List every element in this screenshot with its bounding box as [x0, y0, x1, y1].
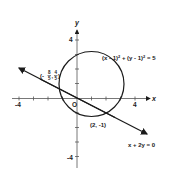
intersection-label-1: (- 8 5 , 4 5 )	[40, 70, 60, 81]
circle-graph	[59, 52, 124, 117]
coordinate-diagram: y x O -4 4 4 -4 (x - 1)2 + (y - 1)2 = 5 …	[0, 0, 186, 177]
intersection-label-2: (2, -1)	[90, 122, 106, 128]
origin-label: O	[72, 101, 77, 108]
y-tick-neg-label: -4	[67, 154, 73, 161]
x-tick-neg-label: -4	[15, 101, 21, 108]
y-tick-pos-label: 4	[69, 36, 73, 43]
y-axis-label: y	[74, 19, 80, 27]
line-equation: x + 2y = 0	[128, 142, 156, 148]
svg-text:,: ,	[52, 73, 54, 79]
svg-text:): )	[58, 73, 60, 79]
x-tick-pos-label: 4	[133, 101, 137, 108]
svg-text:(-: (-	[40, 73, 44, 79]
circle-equation: (x - 1)2 + (y - 1)2 = 5	[102, 54, 156, 62]
x-axis-label: x	[151, 95, 157, 102]
